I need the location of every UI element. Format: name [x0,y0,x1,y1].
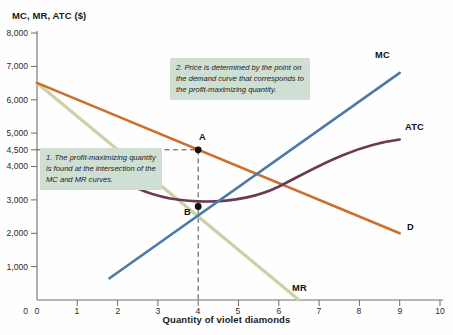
point-b-marker [195,203,202,210]
mr-curve [37,83,299,300]
mr-curve-label: MR [292,283,307,293]
y-tick-label-7000: 7,000 [0,61,28,71]
y-tick-label-5000: 5,000 [0,128,28,138]
x-axis-ticks [77,300,440,306]
atc-curve-label: ATC [405,122,424,132]
y-tick-label-2000: 2,000 [0,228,28,238]
y-tick-label-6000: 6,000 [0,95,28,105]
y-tick-label-8000: 8,000 [0,28,28,38]
y-tick-label-4000: 4,000 [0,161,28,171]
y-tick-label-1000: 1,000 [0,262,28,272]
point-a-marker [195,146,202,153]
point-a-label: A [199,132,206,142]
demand-curve-label: D [407,222,414,232]
callout-price-determination: 2. Price is determined by the point on t… [170,58,310,100]
callout-profit-maximizing-quantity: 1. The profit-maximizing quantity is fou… [40,148,162,190]
x-axis-title: Quantity of violet diamonds [0,314,453,325]
y-tick-label-3000: 3,000 [0,195,28,205]
y-axis-ticks [31,33,37,267]
economics-chart-figure: MC, MR, ATC ($) [0,0,453,335]
y-tick-label-4500: 4,500 [0,145,28,155]
point-b-label: B [184,207,191,217]
mc-curve-label: MC [375,50,390,60]
